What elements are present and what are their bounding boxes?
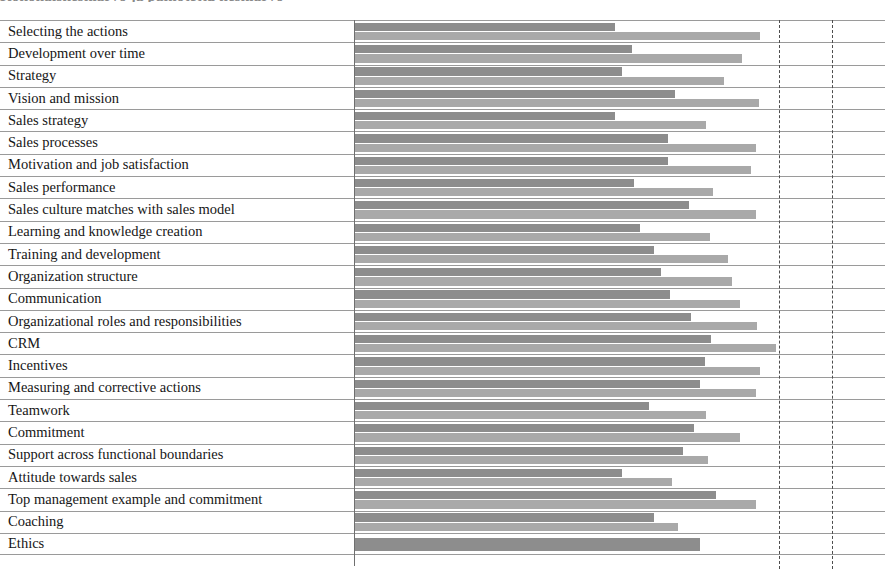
bar-series-1 <box>355 335 711 343</box>
bar-series-2 <box>355 389 756 397</box>
bar-series-1 <box>355 45 632 53</box>
chart-title-clipped: Kokonaiskeskiarvo ja painotettu keskiarv… <box>0 0 885 2</box>
bar-series-1 <box>355 246 654 254</box>
bar-series-2 <box>355 121 706 129</box>
category-label: Measuring and corrective actions <box>8 381 201 396</box>
category-label: Support across functional boundaries <box>8 448 223 463</box>
category-label: Top management example and commitment <box>8 492 262 507</box>
bar-group <box>355 201 885 219</box>
bar-series-1 <box>355 90 675 98</box>
bar-series-1 <box>355 134 668 142</box>
bar-group <box>355 491 885 509</box>
bar-series-2 <box>355 367 760 375</box>
bar-group <box>355 89 885 107</box>
gridline-4-0 <box>779 20 780 569</box>
category-label: Coaching <box>8 515 64 530</box>
category-label: Organizational roles and responsibilitie… <box>8 314 242 329</box>
category-label: Sales culture matches with sales model <box>8 202 235 216</box>
bar-group <box>355 290 885 308</box>
bar-series-1 <box>355 67 622 75</box>
bar-group <box>355 223 885 241</box>
bar-series-2 <box>355 54 742 62</box>
category-label: Sales strategy <box>8 113 88 128</box>
bar-series-2 <box>355 433 740 441</box>
bar-series-1 <box>355 424 694 432</box>
category-label: Strategy <box>8 69 56 84</box>
category-label: Teamwork <box>8 403 70 418</box>
bar-group <box>355 312 885 330</box>
chart-row: Selecting the actions <box>0 20 885 42</box>
bar-series-1 <box>355 313 691 321</box>
bar-group <box>355 179 885 197</box>
bar-series-1 <box>355 23 615 31</box>
bar-series-2 <box>355 144 756 152</box>
bar-group <box>355 268 885 286</box>
chart-row: CRM <box>0 332 885 354</box>
bar-group <box>355 245 885 263</box>
category-label: Commitment <box>8 425 85 440</box>
chart-row: Vision and mission <box>0 87 885 109</box>
plot-area: Selecting the actionsDevelopment over ti… <box>0 20 885 566</box>
bar-series-1 <box>355 447 683 455</box>
category-label: CRM <box>8 336 40 351</box>
chart-row: Communication <box>0 288 885 310</box>
category-axis-line <box>354 20 355 566</box>
bar-series-1 <box>355 513 654 521</box>
category-label: Ethics <box>8 536 44 551</box>
chart-row: Sales processes <box>0 131 885 153</box>
bar-group <box>355 45 885 63</box>
bar-series-1 <box>355 469 622 477</box>
chart-row: Top management example and commitment <box>0 488 885 510</box>
chart-row: Support across functional boundaries <box>0 444 885 466</box>
bar-series-1 <box>355 491 716 499</box>
category-label: Sales performance <box>8 180 116 194</box>
category-label: Vision and mission <box>8 91 119 106</box>
bar-series-1 <box>355 179 634 187</box>
chart-row: Teamwork <box>0 399 885 421</box>
bar-series-2 <box>355 255 728 263</box>
category-label: Communication <box>8 292 101 307</box>
bar-series-2 <box>355 322 757 330</box>
bar-series-1 <box>355 380 700 388</box>
chart-row: Ethics <box>0 533 885 555</box>
chart-row: Strategy <box>0 65 885 87</box>
category-label: Selecting the actions <box>8 24 128 39</box>
bar-series-2 <box>355 500 756 508</box>
bar-series-2 <box>355 99 759 107</box>
category-label: Development over time <box>8 46 145 61</box>
bar-group <box>355 513 885 531</box>
bar-series-2 <box>355 166 751 174</box>
horizontal-bar-chart: Kokonaiskeskiarvo ja painotettu keskiarv… <box>0 0 885 576</box>
bar-group <box>355 379 885 397</box>
chart-row: Sales performance <box>0 176 885 198</box>
bar-group <box>355 112 885 130</box>
category-label: Sales processes <box>8 136 98 150</box>
bar-series-1 <box>355 290 670 298</box>
bar-series-2 <box>355 210 756 218</box>
bar-group <box>355 357 885 375</box>
category-label: Motivation and job satisfaction <box>8 158 189 172</box>
bar-group <box>355 134 885 152</box>
bar-group <box>355 156 885 174</box>
bar-group <box>355 402 885 420</box>
chart-row: Organizational roles and responsibilitie… <box>0 310 885 332</box>
bar-series-2 <box>355 300 740 308</box>
chart-row: Sales strategy <box>0 109 885 131</box>
bar-series-2 <box>355 77 724 85</box>
bar-group <box>355 335 885 353</box>
bar-group <box>355 446 885 464</box>
chart-row: Commitment <box>0 421 885 443</box>
bar-series-1 <box>355 201 689 209</box>
chart-row: Motivation and job satisfaction <box>0 154 885 176</box>
bar-group <box>355 67 885 85</box>
category-label: Learning and knowledge creation <box>8 225 202 239</box>
bar-series-2 <box>355 277 732 285</box>
bar-series-1 <box>355 112 615 120</box>
chart-row: Organization structure <box>0 265 885 287</box>
chart-row: Attitude towards sales <box>0 466 885 488</box>
bar-group <box>355 468 885 486</box>
bar-group <box>355 424 885 442</box>
bar-series-2 <box>355 188 713 196</box>
bar-series-2 <box>355 456 708 464</box>
category-label: Organization structure <box>8 269 138 284</box>
